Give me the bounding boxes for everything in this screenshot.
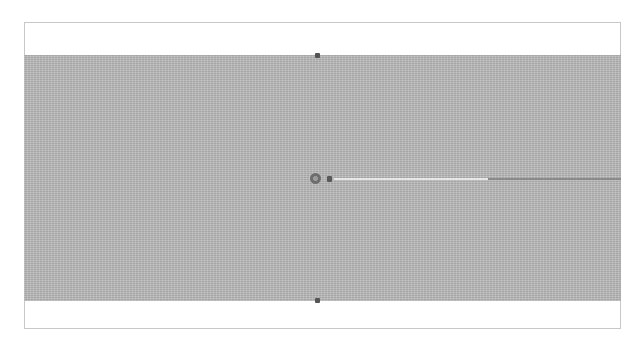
beam-light-segment <box>334 178 488 180</box>
source-ring-icon <box>310 173 321 184</box>
bottom-marker-icon <box>315 298 320 303</box>
source-dot-icon <box>327 176 332 182</box>
top-marker-icon <box>315 53 320 58</box>
beam-dark-segment <box>488 178 621 180</box>
